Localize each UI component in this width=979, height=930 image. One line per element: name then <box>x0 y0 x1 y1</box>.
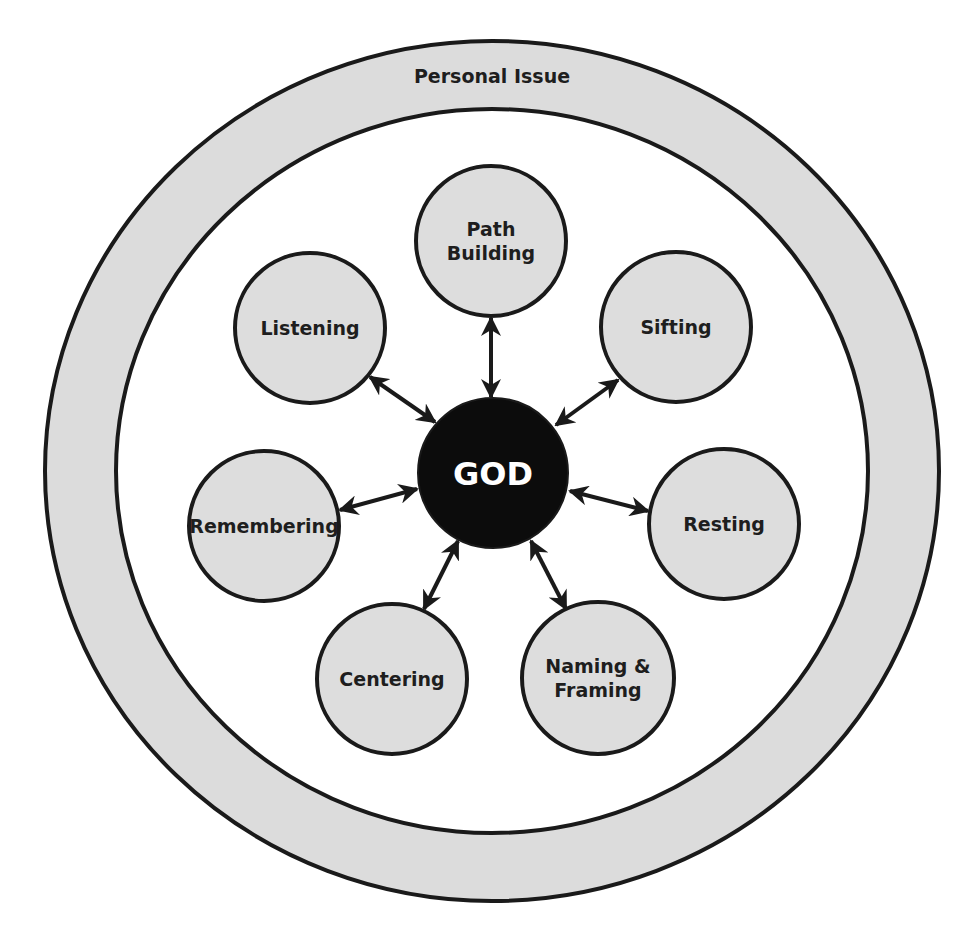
personal-issue-label: Personal Issue <box>414 65 570 87</box>
node-label-sifting: Sifting <box>640 316 711 338</box>
center-node-god: GOD <box>418 398 568 548</box>
node-path-building: PathBuilding <box>416 166 566 316</box>
node-label-resting: Resting <box>683 513 765 535</box>
node-label-path-building: Path <box>467 218 516 240</box>
node-naming-framing: Naming &Framing <box>522 602 674 754</box>
node-listening: Listening <box>235 253 385 403</box>
node-resting: Resting <box>649 449 799 599</box>
node-label-listening: Listening <box>260 317 359 339</box>
node-label-naming-framing: Framing <box>554 679 641 701</box>
god-label: GOD <box>453 455 533 493</box>
node-label-naming-framing: Naming & <box>545 655 650 677</box>
personal-issue-diagram: Personal Issue PathBuildingListeningSift… <box>0 0 979 930</box>
node-label-centering: Centering <box>339 668 444 690</box>
node-remembering: Remembering <box>189 451 339 601</box>
node-centering: Centering <box>317 604 467 754</box>
node-label-path-building: Building <box>447 242 535 264</box>
node-sifting: Sifting <box>601 252 751 402</box>
node-label-remembering: Remembering <box>189 515 339 537</box>
